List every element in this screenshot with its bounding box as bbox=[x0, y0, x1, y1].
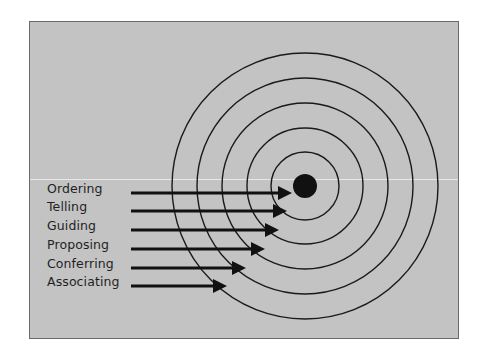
arrowhead-icon bbox=[265, 223, 279, 237]
label-telling: Telling bbox=[47, 200, 87, 214]
label-proposing: Proposing bbox=[47, 238, 109, 252]
target-diagram bbox=[0, 0, 485, 358]
label-associating: Associating bbox=[47, 275, 120, 289]
bullseye bbox=[293, 174, 317, 198]
label-ordering: Ordering bbox=[47, 182, 103, 196]
arrow-telling bbox=[131, 204, 287, 218]
arrowhead-icon bbox=[232, 261, 246, 275]
arrowhead-icon bbox=[273, 204, 287, 218]
arrow-ordering bbox=[131, 186, 292, 200]
arrowhead-icon bbox=[278, 186, 292, 200]
label-guiding: Guiding bbox=[47, 219, 96, 233]
arrowhead-icon bbox=[213, 279, 227, 293]
label-conferring: Conferring bbox=[47, 257, 114, 271]
